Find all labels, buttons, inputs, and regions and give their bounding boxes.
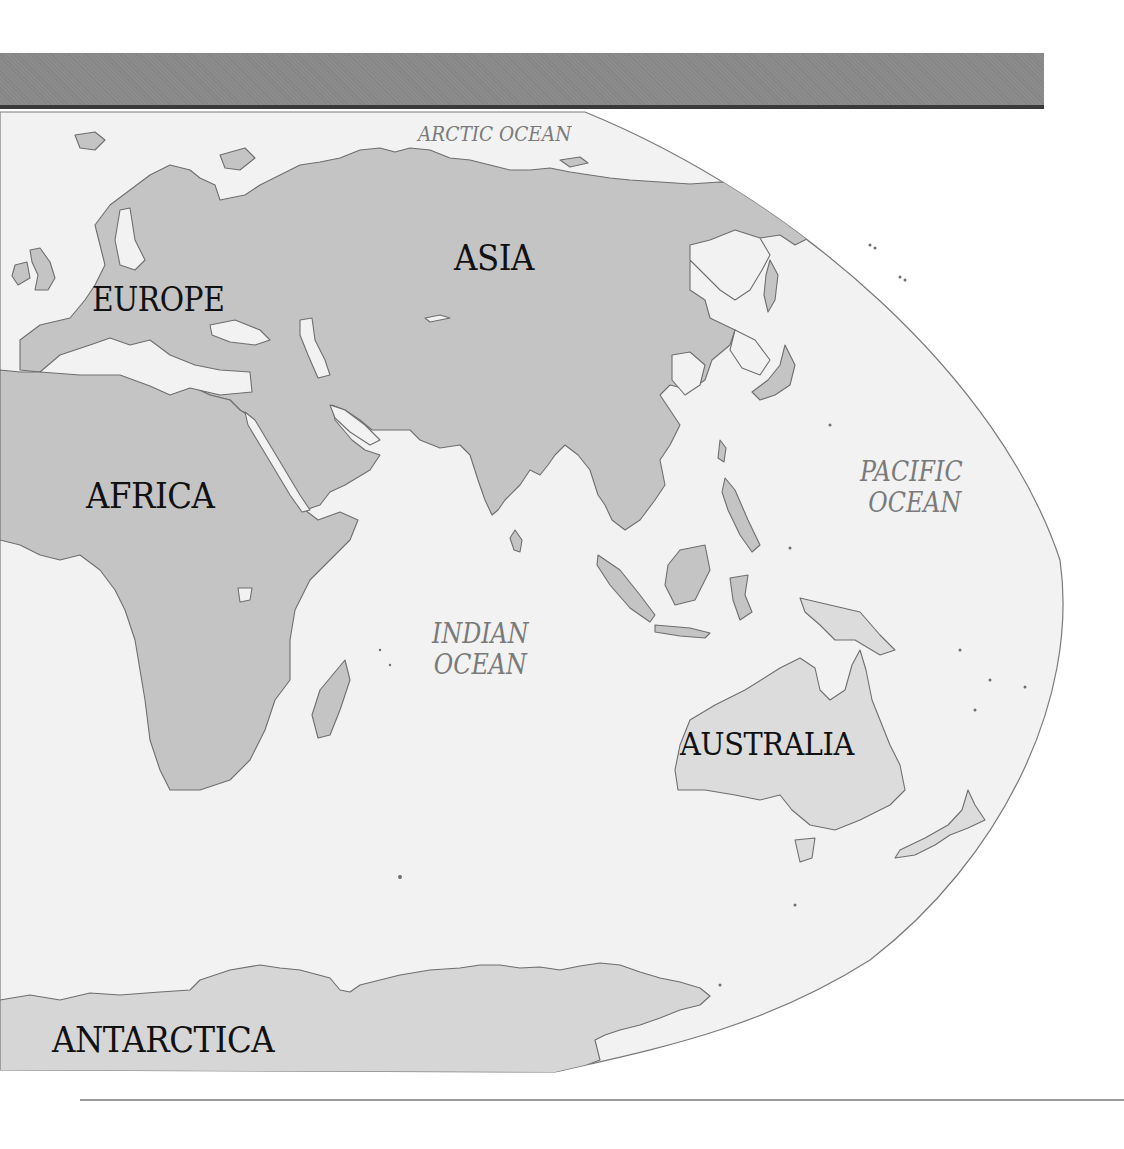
arctic-ocean-text: ARCTIC OCEAN — [418, 122, 571, 146]
map — [0, 0, 1124, 1149]
europe-label: EUROPE — [92, 283, 224, 316]
pacific-ocean-line1: PACIFIC — [860, 458, 963, 485]
africa-label: AFRICA — [86, 478, 215, 514]
antarctica-label: ANTARCTICA — [52, 1022, 274, 1058]
bottom-rule — [80, 1099, 1124, 1101]
lake-victoria — [238, 588, 252, 602]
indian-ocean-line1: INDIAN — [432, 620, 529, 647]
arctic-ocean-label: ARCTIC OCEAN — [418, 124, 571, 145]
asia-label: ASIA — [454, 240, 534, 276]
pacific-ocean-line2: OCEAN — [867, 489, 963, 516]
indian-ocean-label: INDIAN OCEAN — [432, 620, 529, 678]
australia-label: AUSTRALIA — [680, 728, 854, 760]
pacific-ocean-label: PACIFIC OCEAN — [860, 458, 963, 516]
indian-ocean-line2: OCEAN — [432, 651, 529, 678]
